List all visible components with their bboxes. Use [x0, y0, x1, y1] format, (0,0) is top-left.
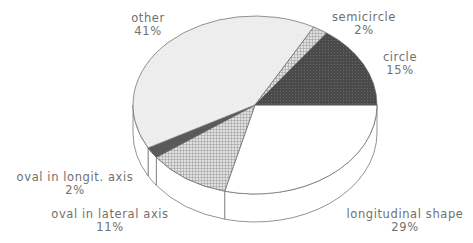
label-circle-pct: 15% [370, 64, 430, 77]
pie-top-face [133, 16, 377, 194]
label-other-pct: 41% [119, 25, 177, 38]
label-oval-lateral: oval in lateral axis 11% [45, 208, 175, 234]
label-oval-longit: oval in longit. axis 2% [10, 171, 140, 197]
label-circle: circle 15% [370, 51, 430, 77]
label-oval-lateral-pct: 11% [45, 221, 175, 234]
label-other: other 41% [119, 12, 177, 38]
label-semicircle: semicircle 2% [328, 11, 400, 37]
label-longitudinal-pct: 29% [340, 221, 470, 234]
label-oval-longit-pct: 2% [10, 184, 140, 197]
label-semicircle-pct: 2% [328, 24, 400, 37]
label-longitudinal: longitudinal shape 29% [340, 208, 470, 234]
